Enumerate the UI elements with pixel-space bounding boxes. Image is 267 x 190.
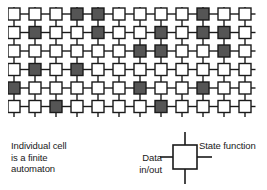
automaton-cell-inactive [29,8,41,20]
automaton-cell-inactive [197,64,209,76]
automaton-cell-inactive [92,101,104,113]
automaton-cell-active [29,27,41,39]
automaton-cell-inactive [218,8,230,20]
automaton-cell-inactive [218,64,230,76]
automaton-cell-active [155,101,167,113]
automaton-cell-active [197,8,209,20]
automaton-cell-inactive [134,101,146,113]
cellular-automaton-figure: Individual cell is a finite automaton Da… [0,0,267,190]
automaton-cell-inactive [197,45,209,57]
automaton-cell-inactive [176,82,188,94]
automaton-cell-inactive [8,101,20,113]
automaton-cell-inactive [8,8,20,20]
legend-cell-symbol [160,132,212,184]
automaton-cell-inactive [239,8,251,20]
automaton-cell-inactive [134,8,146,20]
data-in-out-label: Data in/out [120,152,162,175]
automaton-cell-inactive [71,101,83,113]
automaton-cell-inactive [50,27,62,39]
automaton-cell-inactive [92,64,104,76]
automaton-grid [8,7,260,119]
automaton-cell-inactive [134,27,146,39]
automaton-cell-active [134,82,146,94]
automaton-cell-active [29,64,41,76]
automaton-cell-inactive [50,64,62,76]
automaton-cell-inactive [197,101,209,113]
automaton-cell-inactive [71,45,83,57]
automaton-cell-inactive [113,101,125,113]
automaton-cell-inactive [176,45,188,57]
automaton-cell-inactive [113,64,125,76]
automaton-cell-inactive [113,27,125,39]
automaton-cell-inactive [113,8,125,20]
automaton-cell-active [218,45,230,57]
automaton-cell-inactive [29,45,41,57]
automaton-cell-active [50,101,62,113]
automaton-cell-inactive [92,45,104,57]
automaton-cell-inactive [239,27,251,39]
automaton-cell-inactive [218,101,230,113]
automaton-grid-svg [8,7,260,119]
automaton-cell-inactive [176,8,188,20]
automaton-cell-inactive [176,64,188,76]
automaton-cell-active [92,8,104,20]
legend-cell-square [173,145,197,169]
automaton-cell-active [155,27,167,39]
automaton-cell-inactive [113,82,125,94]
automaton-cell-active [8,82,20,94]
automaton-cell-inactive [239,64,251,76]
automaton-cell-inactive [155,82,167,94]
automaton-cell-inactive [113,45,125,57]
automaton-cell-inactive [176,27,188,39]
automaton-cell-inactive [8,27,20,39]
automaton-cell-active [71,8,83,20]
automaton-cell-inactive [134,64,146,76]
automaton-cell-inactive [71,82,83,94]
automaton-cell-active [218,27,230,39]
automaton-cell-inactive [50,8,62,20]
automaton-cell-inactive [71,27,83,39]
legend-cell-symbol-svg [160,132,212,184]
automaton-cell-inactive [239,45,251,57]
automaton-cell-active [134,45,146,57]
automaton-cell-inactive [239,101,251,113]
automaton-cell-inactive [155,64,167,76]
automaton-cell-active [155,45,167,57]
automaton-cell-inactive [239,82,251,94]
automaton-cell-active [92,27,104,39]
automaton-cell-inactive [8,64,20,76]
automaton-cell-inactive [50,82,62,94]
automaton-cell-inactive [155,8,167,20]
automaton-cell-active [197,27,209,39]
automaton-cell-active [197,82,209,94]
individual-cell-caption: Individual cell is a finite automaton [11,140,116,175]
automaton-cell-inactive [92,82,104,94]
automaton-cell-inactive [218,82,230,94]
automaton-cell-inactive [29,101,41,113]
automaton-cell-inactive [8,45,20,57]
automaton-cell-active [71,64,83,76]
automaton-cell-inactive [29,82,41,94]
automaton-cell-inactive [50,45,62,57]
automaton-cell-inactive [176,101,188,113]
